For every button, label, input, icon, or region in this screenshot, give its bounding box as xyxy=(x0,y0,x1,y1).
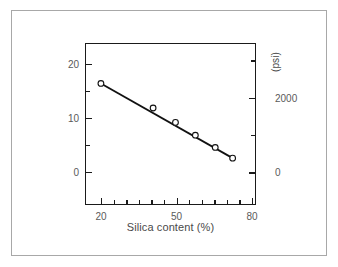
y-axis-tick-label: 0 xyxy=(49,166,79,177)
secondary-y-axis-tick-label: 0 xyxy=(275,167,281,178)
chart-figure: Compressive strength (MPa) Silica conten… xyxy=(0,0,338,267)
plot-area: 0102002000205080 xyxy=(85,43,256,205)
data-point-marker xyxy=(230,155,236,161)
x-axis-title: Silica content (%) xyxy=(85,221,256,233)
data-point-marker xyxy=(150,105,156,111)
data-series-layer xyxy=(86,44,255,204)
x-axis-tick-label: 80 xyxy=(246,211,257,222)
data-point-marker xyxy=(173,120,179,126)
data-point-marker xyxy=(192,132,198,138)
secondary-y-axis-tick-label: 2000 xyxy=(275,92,297,103)
y-axis-tick-label: 20 xyxy=(49,58,79,69)
x-axis-tick-label: 50 xyxy=(171,211,182,222)
data-point-marker xyxy=(212,145,218,151)
x-axis-tick-label: 20 xyxy=(96,211,107,222)
data-point-marker xyxy=(98,81,104,87)
y-axis-tick-label: 10 xyxy=(49,112,79,123)
